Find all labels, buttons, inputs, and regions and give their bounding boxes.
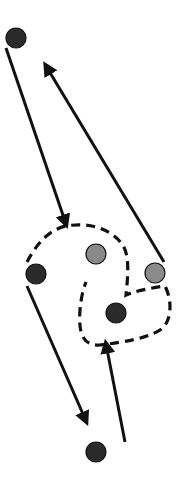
- dashed-boundary: [27, 225, 170, 345]
- arrow-layer: [6, 48, 164, 442]
- gray-node: [145, 263, 165, 283]
- diagram-svg: [0, 0, 185, 487]
- arrow-down-icon: [27, 286, 86, 421]
- arrow-up-icon: [46, 66, 164, 262]
- node-layer: [6, 28, 165, 462]
- dark-node: [86, 442, 106, 462]
- arrow-down-icon: [6, 48, 66, 224]
- gray-node: [86, 244, 106, 264]
- dark-node: [26, 264, 46, 284]
- dark-node: [6, 28, 26, 48]
- diagram-canvas: [0, 0, 185, 487]
- dark-node: [106, 303, 126, 323]
- arrow-up-icon: [106, 344, 125, 442]
- dashed-region-layer: [27, 225, 170, 345]
